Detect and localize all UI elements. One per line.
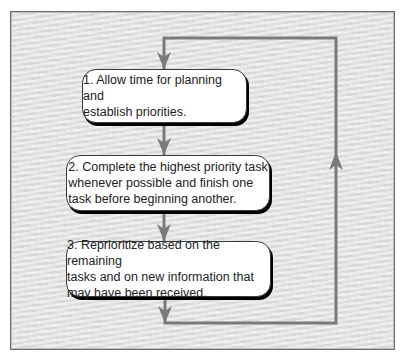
step-box-2: 2. Complete the highest priority task wh…: [66, 155, 270, 211]
step-box-1: 1. Allow time for planning and establish…: [82, 69, 247, 123]
step-3-text: 3. Reprioritize based on the remaining t…: [67, 237, 270, 301]
step-1-text: 1. Allow time for planning and establish…: [83, 72, 246, 120]
step-2-text: 2. Complete the highest priority task wh…: [68, 159, 267, 207]
step-box-3: 3. Reprioritize based on the remaining t…: [66, 241, 271, 297]
